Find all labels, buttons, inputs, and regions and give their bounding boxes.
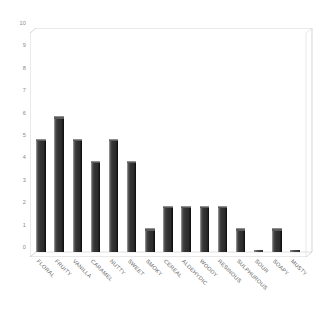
y-tick-label-0: 0 xyxy=(10,244,26,250)
bar-resinous xyxy=(218,205,228,252)
bar-soapy xyxy=(272,228,282,252)
bar-body xyxy=(272,230,282,252)
y-tick-label-5: 5 xyxy=(10,132,26,138)
bar-top-face xyxy=(181,206,191,208)
bar-musty xyxy=(290,249,300,252)
bar-top-face xyxy=(73,139,83,141)
bar-top-face xyxy=(163,206,173,208)
y-tick-label-7: 7 xyxy=(10,87,26,93)
bar-body xyxy=(200,207,210,252)
bar-body xyxy=(127,162,137,252)
y-tick-label-6: 6 xyxy=(10,110,26,116)
y-tick-label-4: 4 xyxy=(10,154,26,160)
bar-zero-marker xyxy=(290,250,300,252)
bar-woody xyxy=(200,205,210,252)
bar-top-face xyxy=(200,206,210,208)
bar-caramel xyxy=(91,160,101,252)
bar-top-face xyxy=(272,228,282,230)
bar-top-face xyxy=(236,228,246,230)
y-tick-label-10: 10 xyxy=(10,20,26,26)
bar-body xyxy=(145,230,155,252)
x-tick-label-smoky: SMOKY xyxy=(145,258,164,277)
bar-aldehydic xyxy=(181,205,191,252)
bar-smoky xyxy=(145,228,155,252)
bar-body xyxy=(36,140,46,252)
bar-top-face xyxy=(109,139,119,141)
bar-top-face xyxy=(36,139,46,141)
bar-body xyxy=(73,140,83,252)
bar-zero-marker xyxy=(254,250,264,252)
bar-body xyxy=(91,162,101,252)
bars-layer xyxy=(30,28,313,257)
y-tick-label-1: 1 xyxy=(10,222,26,228)
bar-vanilla xyxy=(73,138,83,252)
y-axis-tick-labels: 109876543210 xyxy=(10,23,26,252)
x-tick-label-soapy: SOAPY xyxy=(272,258,291,277)
bar-body xyxy=(163,207,173,252)
bar-body xyxy=(236,230,246,252)
y-tick-label-3: 3 xyxy=(10,177,26,183)
bar-top-face xyxy=(218,206,228,208)
bar-sour xyxy=(254,249,264,252)
bar-nutty xyxy=(109,138,119,252)
x-tick-label-fruity: FRUITY xyxy=(54,258,73,277)
bar-floral xyxy=(36,138,46,252)
x-tick-label-sweet: SWEET xyxy=(126,258,145,277)
bar-top-face xyxy=(54,116,64,118)
bar-top-face xyxy=(91,161,101,163)
x-tick-label-musty: MUSTY xyxy=(290,258,309,277)
bar-body xyxy=(54,118,64,252)
bar-top-face xyxy=(145,228,155,230)
bar-fruity xyxy=(54,116,64,252)
bar-chart-figure: 109876543210 FLORALFRUITYVANILLACARAMELN… xyxy=(0,0,327,329)
bar-top-face xyxy=(127,161,137,163)
bar-sulphurous xyxy=(236,228,246,252)
x-axis-tick-labels: FLORALFRUITYVANILLACARAMELNUTTYSWEETSMOK… xyxy=(30,258,313,328)
x-tick-label-nutty: NUTTY xyxy=(108,258,126,276)
y-tick-label-2: 2 xyxy=(10,199,26,205)
bar-body xyxy=(181,207,191,252)
y-tick-label-9: 9 xyxy=(10,42,26,48)
y-tick-label-8: 8 xyxy=(10,65,26,71)
bar-body xyxy=(109,140,119,252)
bar-sweet xyxy=(127,160,137,252)
bar-body xyxy=(218,207,228,252)
bar-cereal xyxy=(163,205,173,252)
x-tick-label-sour: SOUR xyxy=(253,258,269,274)
